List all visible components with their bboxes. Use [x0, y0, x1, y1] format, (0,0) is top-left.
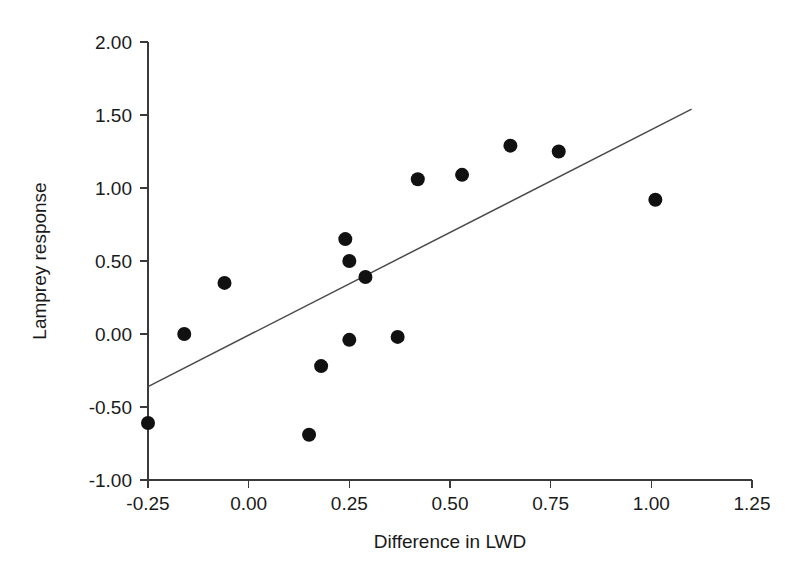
data-point	[411, 172, 425, 186]
scatter-plot-figure: -1.00-0.500.000.501.001.502.00 -0.250.00…	[0, 0, 805, 573]
y-axis-tick-marks	[140, 42, 148, 480]
data-point	[342, 254, 356, 268]
data-point	[177, 327, 191, 341]
y-tick-label: 0.00	[95, 324, 132, 345]
regression-fit-line	[148, 109, 692, 386]
y-tick-label: 2.00	[95, 32, 132, 53]
data-point	[552, 145, 566, 159]
chart-canvas: -1.00-0.500.000.501.001.502.00 -0.250.00…	[0, 0, 805, 573]
x-axis-tick-marks	[148, 480, 752, 488]
data-point	[338, 232, 352, 246]
data-point	[503, 139, 517, 153]
y-tick-label: -0.50	[89, 397, 132, 418]
x-tick-label: 0.75	[532, 493, 569, 514]
x-tick-label: -0.25	[126, 493, 169, 514]
data-point	[302, 428, 316, 442]
data-point	[455, 168, 469, 182]
y-tick-label: -1.00	[89, 470, 132, 491]
y-tick-label: 1.00	[95, 178, 132, 199]
x-axis-title: Difference in LWD	[374, 531, 526, 552]
data-point	[358, 270, 372, 284]
data-point-series	[141, 139, 662, 442]
y-tick-label: 1.50	[95, 105, 132, 126]
y-tick-label: 0.50	[95, 251, 132, 272]
data-point	[314, 359, 328, 373]
x-tick-label: 1.00	[633, 493, 670, 514]
x-tick-label: 0.00	[230, 493, 267, 514]
data-point	[648, 193, 662, 207]
x-tick-label: 0.50	[432, 493, 469, 514]
y-axis-tick-labels: -1.00-0.500.000.501.001.502.00	[89, 32, 132, 491]
data-point	[342, 333, 356, 347]
x-tick-label: 1.25	[734, 493, 771, 514]
x-tick-label: 0.25	[331, 493, 368, 514]
data-point	[391, 330, 405, 344]
x-axis-tick-labels: -0.250.000.250.500.751.001.25	[126, 493, 770, 514]
data-point	[141, 416, 155, 430]
data-point	[218, 276, 232, 290]
y-axis-title: Lamprey response	[29, 182, 50, 339]
